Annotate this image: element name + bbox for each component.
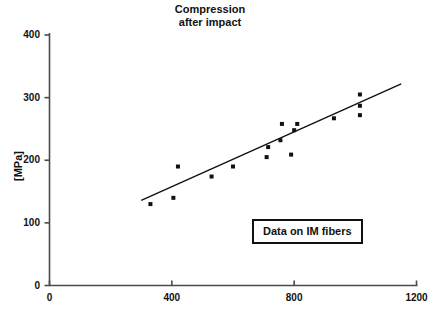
x-tick-label: 1200	[397, 292, 432, 303]
x-tick-label: 0	[30, 292, 70, 303]
y-tick-label: 100	[14, 217, 40, 228]
data-point-marker	[358, 104, 362, 108]
data-point-marker	[265, 155, 269, 159]
y-tick-label: 200	[14, 154, 40, 165]
data-point-marker	[358, 113, 362, 117]
data-point-marker	[289, 153, 293, 157]
y-tick-label: 400	[14, 29, 40, 40]
plot-area	[0, 0, 432, 326]
data-point-marker	[358, 92, 362, 96]
y-tick-label: 300	[14, 92, 40, 103]
data-point-marker	[148, 202, 152, 206]
annotation-box: Data on IM fibers	[252, 219, 363, 244]
data-point-marker	[176, 165, 180, 169]
trend-line	[141, 84, 401, 200]
data-point-marker	[171, 196, 175, 200]
data-point-marker	[280, 122, 284, 126]
y-tick-label: 0	[14, 280, 40, 291]
data-point-marker	[231, 165, 235, 169]
data-point-marker	[210, 175, 214, 179]
data-point-marker	[292, 128, 296, 132]
data-point-marker	[332, 116, 336, 120]
x-tick-label: 800	[274, 292, 314, 303]
data-point-marker	[266, 145, 270, 149]
data-point-marker	[278, 138, 282, 142]
trend-line-segment	[141, 84, 401, 200]
x-tick-label: 400	[152, 292, 192, 303]
chart-figure: Compression after impact [MPa] 010020030…	[0, 0, 432, 326]
data-point-marker	[295, 122, 299, 126]
